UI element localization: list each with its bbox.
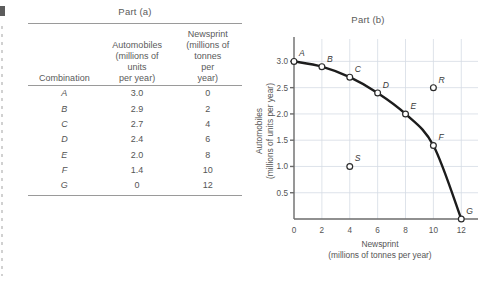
- point-E-label: E: [411, 101, 417, 111]
- table-row: F1.410: [28, 163, 242, 178]
- point-C-label: C: [355, 64, 362, 74]
- point-R-label: R: [438, 75, 444, 85]
- header-combination-line-0: Combination: [30, 73, 99, 84]
- table-row: E2.08: [28, 148, 242, 163]
- part-a-panel: Part (a) Combination Automobiles (millio…: [28, 6, 242, 196]
- cell-combination: C: [28, 117, 101, 132]
- cell-newsprint: 6: [174, 132, 243, 147]
- header-newsprint-line-1: (millions of: [176, 40, 241, 51]
- y-tick-label: 2.0: [277, 110, 289, 119]
- header-newsprint-line-3: per: [176, 62, 241, 73]
- cell-combination: E: [28, 148, 101, 163]
- x-tick-label: 8: [403, 226, 408, 235]
- y-tick-label: 1.0: [277, 162, 289, 171]
- cell-combination: G: [28, 178, 101, 193]
- combinations-table: Combination Automobiles (millions of uni…: [28, 23, 242, 194]
- header-automobiles-line-0: Automobiles: [103, 40, 172, 51]
- margin-mark-block: [0, 6, 5, 16]
- point-B-label: B: [327, 54, 333, 64]
- cell-newsprint: 2: [174, 101, 243, 116]
- x-axis-title: Newsprint: [361, 239, 399, 249]
- part-a-title: Part (a): [28, 6, 242, 17]
- cell-combination: B: [28, 101, 101, 116]
- y-axis-subtitle: (millions of units per year): [265, 83, 275, 179]
- cell-automobiles: 3.0: [101, 86, 174, 102]
- chart-data-points: ABCDEFGRS: [291, 48, 473, 222]
- table-header: Combination Automobiles (millions of uni…: [28, 24, 242, 86]
- table-row: G012: [28, 178, 242, 193]
- margin-dotted-edge: [1, 26, 3, 276]
- ppf-chart: 0.51.01.52.02.53.0024681012 ABCDEFGRS Ne…: [248, 27, 488, 277]
- y-tick-label: 1.5: [277, 136, 289, 145]
- table-bottom-rule: [28, 195, 242, 196]
- x-tick-label: 12: [457, 226, 467, 235]
- cell-newsprint: 8: [174, 148, 243, 163]
- header-automobiles-line-2: units: [103, 62, 172, 73]
- part-b-title: Part (b): [248, 14, 488, 25]
- header-automobiles-line-1: (millions of: [103, 51, 172, 62]
- part-b-panel: Part (b) 0.51.01.52.02.53.0024681012 ABC…: [248, 14, 488, 277]
- header-automobiles-line-3: per year): [103, 73, 172, 84]
- point-A-label: A: [298, 48, 305, 58]
- cell-combination: F: [28, 163, 101, 178]
- header-newsprint: Newsprint (millions of tonnes per year): [174, 24, 243, 86]
- point-S-label: S: [355, 153, 361, 163]
- point-B-marker[interactable]: [319, 64, 325, 70]
- point-S-marker[interactable]: [347, 164, 353, 170]
- point-F-marker[interactable]: [430, 143, 436, 149]
- y-axis-title: Automobiles: [254, 108, 264, 154]
- point-R-marker[interactable]: [430, 85, 436, 91]
- page-margin-artifact: [0, 0, 7, 282]
- header-combination: Combination: [28, 24, 101, 86]
- header-newsprint-line-0: Newsprint: [176, 29, 241, 40]
- header-newsprint-line-4: year): [176, 73, 241, 84]
- cell-automobiles: 2.0: [101, 148, 174, 163]
- x-tick-label: 0: [292, 226, 297, 235]
- table-body: A3.00B2.92C2.74D2.46E2.08F1.410G012: [28, 86, 242, 194]
- table-row: D2.46: [28, 132, 242, 147]
- cell-newsprint: 4: [174, 117, 243, 132]
- table-row: C2.74: [28, 117, 242, 132]
- header-automobiles: Automobiles (millions of units per year): [101, 24, 174, 86]
- point-F-label: F: [438, 132, 444, 142]
- cell-combination: A: [28, 86, 101, 102]
- point-E-marker[interactable]: [403, 111, 409, 117]
- table-row: A3.00: [28, 86, 242, 102]
- cell-automobiles: 2.7: [101, 117, 174, 132]
- cell-automobiles: 2.4: [101, 132, 174, 147]
- cell-newsprint: 10: [174, 163, 243, 178]
- table-row: B2.92: [28, 101, 242, 116]
- point-C-marker[interactable]: [347, 74, 353, 80]
- x-tick-label: 6: [375, 226, 380, 235]
- point-G-label: G: [466, 206, 473, 216]
- cell-automobiles: 2.9: [101, 101, 174, 116]
- x-tick-label: 2: [320, 226, 325, 235]
- header-newsprint-line-2: tonnes: [176, 51, 241, 62]
- table-header-row: Combination Automobiles (millions of uni…: [28, 24, 242, 86]
- point-G-marker[interactable]: [458, 216, 464, 222]
- x-tick-label: 10: [429, 226, 439, 235]
- x-axis-subtitle: (millions of tonnes per year): [328, 250, 432, 260]
- x-tick-label: 4: [347, 226, 352, 235]
- cell-combination: D: [28, 132, 101, 147]
- point-D-label: D: [383, 80, 389, 90]
- point-A-marker[interactable]: [291, 58, 297, 64]
- y-tick-label: 0.5: [277, 189, 289, 198]
- point-D-marker[interactable]: [375, 90, 381, 96]
- cell-newsprint: 0: [174, 86, 243, 102]
- cell-newsprint: 12: [174, 178, 243, 193]
- cell-automobiles: 1.4: [101, 163, 174, 178]
- y-tick-label: 3.0: [277, 57, 289, 66]
- y-tick-label: 2.5: [277, 84, 289, 93]
- cell-automobiles: 0: [101, 178, 174, 193]
